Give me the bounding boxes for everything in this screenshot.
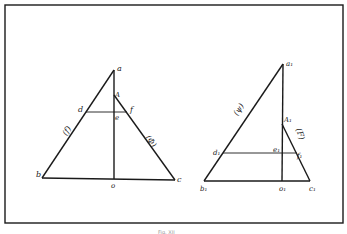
label-side-phi: (Φ) — [144, 133, 159, 149]
right-side-a1b1 — [204, 64, 283, 181]
label-A: A — [114, 91, 120, 99]
label-b1: b₁ — [200, 185, 207, 193]
left-triangle-labels: a A b c d e f o (f) (Φ) — [36, 64, 182, 190]
label-f: f — [129, 105, 135, 114]
right-triangle-labels: a₁ A₁ b₁ c₁ d₁ e₁ f₁ o₁ (ψ) (F) — [200, 60, 316, 193]
figure-frame — [5, 5, 343, 223]
label-e1: e₁ — [273, 146, 280, 154]
label-side-psi: (ψ) — [231, 102, 246, 117]
label-c1: c₁ — [309, 185, 316, 193]
label-f1: f₁ — [296, 152, 303, 160]
label-c: c — [177, 175, 182, 184]
label-b: b — [36, 170, 41, 179]
label-d: d — [78, 105, 83, 114]
label-e: e — [115, 114, 119, 122]
left-side-ab — [42, 70, 114, 178]
label-side-F: (F) — [294, 127, 306, 141]
left-base-bc — [42, 178, 175, 180]
label-d1: d₁ — [213, 149, 220, 157]
right-altitude-a1o1 — [282, 64, 283, 181]
label-o1: o₁ — [279, 185, 286, 193]
label-o: o — [111, 182, 115, 190]
label-a1: a₁ — [286, 60, 293, 68]
label-a: a — [117, 64, 122, 73]
label-A1: A₁ — [283, 116, 292, 124]
left-triangle — [42, 70, 175, 180]
right-triangle — [204, 64, 310, 181]
figure-caption: Fig. XII — [158, 229, 175, 234]
diagram-canvas: a A b c d e f o (f) (Φ) a₁ A₁ b₁ c₁ d₁ e… — [0, 0, 347, 234]
